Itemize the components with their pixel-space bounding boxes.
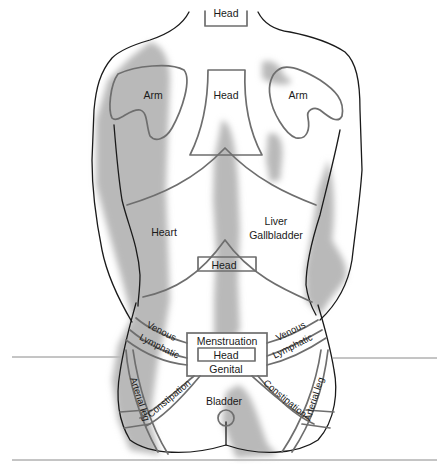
label-mid-head: Head bbox=[211, 259, 236, 271]
label-gallbladder: Gallbladder bbox=[249, 229, 303, 241]
shade-right-shoulder-spot bbox=[262, 61, 291, 85]
label-upper-head: Head bbox=[213, 89, 238, 101]
label-arm-right: Arm bbox=[288, 89, 308, 101]
shade-right-paravertebral bbox=[266, 133, 282, 182]
label-heart: Heart bbox=[151, 226, 177, 238]
label-sacral-head: Head bbox=[213, 349, 238, 361]
back-reflex-zone-diagram: Head Arm Arm Head Heart Liver Gallbladde… bbox=[0, 0, 447, 464]
label-bladder: Bladder bbox=[206, 395, 243, 407]
label-genital: Genital bbox=[209, 363, 242, 375]
label-arm-left: Arm bbox=[143, 89, 163, 101]
label-neck-head: Head bbox=[213, 7, 238, 19]
shade-right-flank bbox=[305, 160, 346, 315]
label-constipation-right: Constipation bbox=[261, 377, 309, 419]
label-liver: Liver bbox=[265, 215, 288, 227]
label-menstruation: Menstruation bbox=[197, 335, 258, 347]
label-arterial-leg-right: Arterial leg bbox=[301, 376, 325, 423]
shade-spine bbox=[213, 120, 240, 340]
